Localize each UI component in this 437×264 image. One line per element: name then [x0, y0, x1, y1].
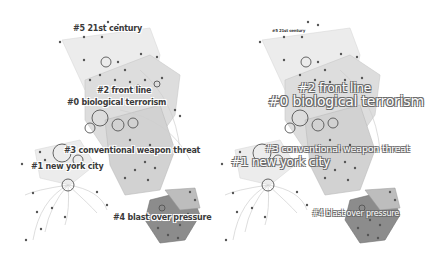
cluster-label-0: #0 biological terrorism [67, 98, 166, 107]
cluster-label-3: #3 conventional weapon threat [265, 143, 410, 154]
cluster-label-0: #0 biological terrorism [268, 93, 424, 109]
cluster-label-1: #1 new york city [231, 155, 330, 169]
cluster-label-5: #5 21st century [272, 28, 305, 33]
network-panel-left: #5 21st century #2 front line #0 biologi… [0, 0, 218, 264]
cluster-label-5: #5 21st century [73, 24, 142, 33]
cluster-label-4: #4 blast over pressure [113, 213, 211, 222]
network-graph-right [218, 0, 437, 264]
cluster-label-3: #3 conventional weapon threat [64, 146, 200, 155]
network-panel-right: #5 21st century #2 front line #0 biologi… [218, 0, 437, 264]
cluster-label-4: #4 blast over pressure [312, 209, 399, 218]
cluster-label-1: #1 new york city [31, 162, 103, 171]
network-graph-left [0, 0, 218, 264]
cluster-label-2: #2 front line [97, 86, 151, 95]
